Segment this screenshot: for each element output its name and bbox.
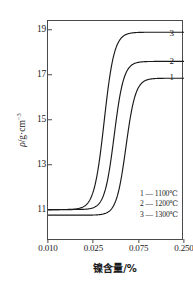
y-axis-tick-19: 19 [37,25,48,35]
y-axis-tick-label: 11 [37,205,48,215]
legend: 1 — 1100℃ 2 — 1200℃ 3 — 1300℃ [140,189,178,220]
y-axis-tick-15: 15 [37,115,48,125]
curve-end-label-1: 1 [170,73,175,82]
curve-end-label-3: 3 [170,29,175,38]
x-axis-tick-label: 0.075 [129,244,148,253]
x-axis-tick-0075: 0.075 [129,239,148,253]
x-axis-tick-0010: 0.010 [38,239,57,253]
x-axis-title: 镍含量/% [47,260,183,275]
y-axis-symbol: ρ [17,142,27,147]
y-axis-tick-label: 19 [37,25,48,35]
legend-item-3: 3 — 1300℃ [140,210,178,220]
y-axis-tick-label: 17 [37,70,48,80]
y-axis-tick-label: 13 [37,160,48,170]
y-axis-tick-label: 15 [37,115,48,125]
y-axis-tick-13: 13 [37,160,48,170]
y-axis-exponent: −3 [15,113,22,120]
x-axis-tick-label: 0.010 [38,244,57,253]
y-axis-title: ρ/g·cm−3 [15,113,27,147]
curve-series-2 [48,61,184,209]
y-axis-tick-17: 17 [37,70,48,80]
curve-end-label-2: 2 [170,57,175,66]
x-axis-tick-0250: 0.250 [174,239,193,253]
legend-item-2: 2 — 1200℃ [140,199,178,209]
plot-area: 11 13 15 17 19 0.010 0.025 [47,20,183,240]
x-axis-tick-0025: 0.025 [84,239,103,253]
x-axis-tick-label: 0.025 [84,244,103,253]
chart-figure: ρ/g·cm−3 11 13 15 17 19 0.010 [0,0,193,282]
legend-item-1: 1 — 1100℃ [140,189,178,199]
y-axis-units: /g·cm [17,120,27,142]
y-axis-tick-11: 11 [37,205,48,215]
x-axis-tick-label: 0.250 [174,244,193,253]
